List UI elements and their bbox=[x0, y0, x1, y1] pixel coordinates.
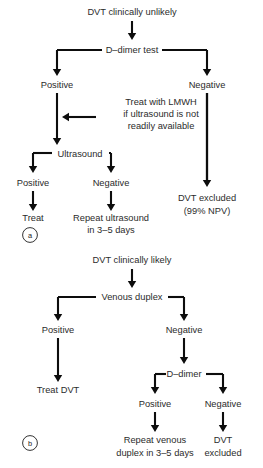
arrowhead-down bbox=[128, 33, 136, 40]
node-label-b-ddimer: D–dimer bbox=[166, 369, 201, 379]
arrowhead-down bbox=[29, 166, 37, 173]
connector-c-a-pos-us bbox=[53, 93, 61, 145]
node-label-b-dd-neg: Negative bbox=[205, 399, 242, 409]
arrowhead-left bbox=[62, 113, 69, 121]
panel-marker-letter: b bbox=[28, 439, 32, 448]
arrowhead-down bbox=[219, 387, 227, 394]
connector-c-b-root-duplex bbox=[128, 269, 136, 288]
node-label-a-excluded-1: DVT excluded bbox=[178, 193, 236, 203]
connector-c-a-lmwh-in bbox=[62, 113, 96, 121]
connector-c-a-root-ddimer bbox=[128, 21, 136, 40]
node-label-a-lmwh-2: if ultrasound is not bbox=[123, 109, 199, 119]
node-layer: DVT clinically unlikelyD–dimer testPosit… bbox=[17, 7, 242, 458]
panel-marker-b: b bbox=[23, 436, 38, 451]
connector-c-b-pos-treat bbox=[54, 338, 62, 382]
arrowhead-down bbox=[54, 314, 62, 321]
arrowhead-down bbox=[219, 425, 227, 432]
connector-c-a-usneg-repeat bbox=[107, 191, 115, 211]
connector-c-b-dx-right bbox=[168, 297, 188, 321]
arrowhead-down bbox=[151, 387, 159, 394]
arrowhead-down bbox=[54, 375, 62, 382]
connector-c-b-neg-ddimer bbox=[180, 338, 188, 364]
arrowhead-down bbox=[107, 166, 115, 173]
arrowhead-down bbox=[128, 281, 136, 288]
arrowhead-down bbox=[53, 138, 61, 145]
node-label-a-repeat-2: in 3–5 days bbox=[87, 225, 135, 235]
connector-c-b-dd-left bbox=[151, 374, 166, 394]
connector-c-a-dd-right bbox=[162, 50, 211, 76]
node-label-a-root: DVT clinically unlikely bbox=[87, 7, 177, 17]
flowchart-figure: DVT clinically unlikelyD–dimer testPosit… bbox=[0, 0, 263, 468]
arrowhead-down bbox=[151, 425, 159, 432]
panel-marker-a: a bbox=[23, 228, 38, 243]
node-label-a-excluded-2: (99% NPV) bbox=[184, 206, 231, 216]
node-label-b-neg: Negative bbox=[166, 325, 203, 335]
connector-c-a-dd-left bbox=[53, 50, 102, 76]
connector-c-b-neg-excl bbox=[219, 412, 227, 432]
node-label-a-lmwh-1: Treat with LMWH bbox=[125, 97, 196, 107]
node-label-b-treat: Treat DVT bbox=[37, 385, 80, 395]
node-label-b-root: DVT clinically likely bbox=[93, 255, 172, 265]
arrowhead-down bbox=[107, 204, 115, 211]
arrowhead-down bbox=[180, 314, 188, 321]
connector-c-a-us-right bbox=[107, 153, 115, 173]
connector-c-a-uspos-treat bbox=[29, 191, 37, 211]
arrowhead-down bbox=[203, 69, 211, 76]
node-label-a-repeat-1: Repeat ultrasound bbox=[73, 213, 149, 223]
node-label-b-duplex: Venous duplex bbox=[102, 292, 163, 302]
connector-c-b-dx-left bbox=[54, 297, 96, 321]
node-label-a-us-pos: Positive bbox=[17, 178, 50, 188]
node-label-b-excluded-1: DVT bbox=[214, 435, 233, 445]
arrowhead-down bbox=[53, 69, 61, 76]
flowchart-canvas: DVT clinically unlikelyD–dimer testPosit… bbox=[0, 0, 263, 468]
node-label-b-excluded-2: excluded bbox=[204, 448, 241, 458]
connector-c-b-dd-right bbox=[206, 374, 227, 394]
connector-c-a-neg-excl bbox=[203, 93, 211, 187]
arrowhead-down bbox=[180, 357, 188, 364]
connector-c-a-us-left bbox=[29, 153, 52, 173]
node-label-b-repeat-2: duplex in 3–5 days bbox=[116, 448, 194, 458]
node-label-a-neg: Negative bbox=[189, 80, 226, 90]
node-label-a-treat: Treat bbox=[22, 213, 44, 223]
node-label-b-pos: Positive bbox=[42, 325, 75, 335]
arrowhead-down bbox=[203, 180, 211, 187]
panel-marker-letter: a bbox=[28, 231, 33, 240]
panel-marker-layer: ab bbox=[23, 228, 38, 451]
node-label-a-ddimer: D–dimer test bbox=[106, 45, 159, 55]
node-label-b-dd-pos: Positive bbox=[139, 399, 172, 409]
connector-c-b-pos-repeat bbox=[151, 412, 159, 432]
node-label-a-pos: Positive bbox=[41, 80, 74, 90]
node-label-a-lmwh-3: readily available bbox=[128, 121, 195, 131]
node-label-a-us-neg: Negative bbox=[93, 178, 130, 188]
node-label-a-us: Ultrasound bbox=[58, 149, 103, 159]
arrowhead-down bbox=[29, 204, 37, 211]
node-label-b-repeat-1: Repeat venous bbox=[124, 435, 187, 445]
